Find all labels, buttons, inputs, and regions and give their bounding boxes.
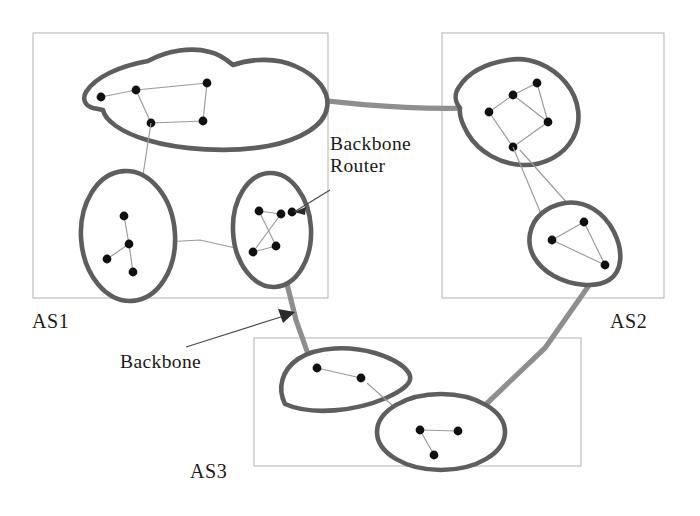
router-node — [277, 210, 286, 219]
fan-outline-as3 — [281, 348, 410, 410]
cloud-outline-as1-top — [84, 50, 327, 150]
router-node — [580, 218, 589, 227]
router-node — [272, 242, 281, 251]
label-backbone: Backbone — [120, 351, 201, 372]
as-label-as3: AS3 — [190, 460, 227, 482]
router-node — [97, 93, 106, 102]
router-node — [416, 426, 425, 435]
router-node — [454, 427, 463, 436]
network-as1-ellipse-left — [77, 168, 180, 304]
router-node — [430, 451, 439, 460]
blob-outline-as2-bottom — [529, 203, 620, 285]
router-node — [255, 207, 264, 216]
router-node — [533, 79, 542, 88]
router-node — [125, 240, 134, 249]
router-node — [313, 364, 322, 373]
leader-line-backbone — [186, 316, 284, 347]
network-as2-blob-bottom — [529, 203, 620, 285]
network-as3-fan — [281, 348, 410, 410]
router-node — [357, 374, 366, 383]
network-as3-ellipse — [377, 394, 505, 470]
router-node — [249, 248, 258, 257]
router-node — [548, 236, 557, 245]
router-node — [203, 79, 212, 88]
label-backbone-router-line1: Backbone — [330, 133, 411, 154]
diagram-canvas: Backbone Router Backbone AS1 AS2 AS3 — [0, 0, 700, 516]
label-backbone-router-line2: Router — [330, 155, 386, 176]
router-node — [485, 108, 494, 117]
network-as1-cloud-top — [84, 50, 327, 150]
network-as2-blob-top — [456, 59, 579, 165]
blob-outline-as2-top — [456, 59, 579, 165]
as-label-as1: AS1 — [32, 310, 69, 332]
router-node — [129, 268, 138, 277]
router-node — [509, 91, 518, 100]
router-node — [120, 212, 129, 221]
router-node — [601, 261, 610, 270]
router-node — [199, 117, 208, 126]
ellipse-outline-as1-right — [230, 171, 314, 289]
ellipse-outline-as3 — [377, 394, 505, 470]
network-as1-ellipse-right — [230, 171, 314, 289]
router-node — [132, 86, 141, 95]
as-label-as2: AS2 — [610, 310, 647, 332]
network-diagram-figure: Backbone Router Backbone AS1 AS2 AS3 — [0, 0, 700, 516]
router-node — [544, 118, 553, 127]
router-node — [103, 255, 112, 264]
